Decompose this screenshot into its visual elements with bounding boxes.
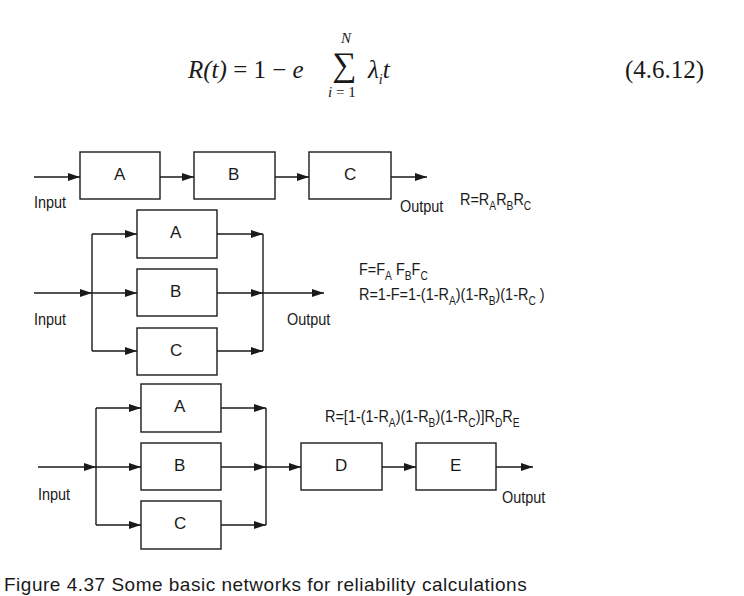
- formula-sub: A: [449, 294, 456, 308]
- mixed-reliability-formula: R=[1-(1-RA)(1-RB)(1-RC)]RDRE: [325, 407, 520, 430]
- formula-sub: D: [495, 416, 502, 430]
- formula-sub: B: [489, 294, 496, 308]
- formula-sub: B: [405, 269, 412, 283]
- formula-sub: C: [420, 269, 427, 283]
- formula-sub: E: [513, 416, 520, 430]
- formula-text: )(1-R: [435, 407, 468, 426]
- series-output-label: Output: [400, 197, 443, 217]
- series-block-b-label: B: [228, 165, 239, 185]
- mixed-block-a-label: A: [174, 397, 185, 417]
- formula-text: R=1-F=1-(1-R: [359, 285, 449, 304]
- parallel-reliability-formula: R=1-F=1-(1-RA)(1-RB)(1-RC ): [359, 285, 545, 308]
- formula-sub: C: [524, 199, 531, 213]
- formula-sub: C: [528, 294, 535, 308]
- formula-sub: B: [507, 199, 514, 213]
- mixed-block-d-label: D: [335, 456, 347, 476]
- formula-text: )(1-R: [495, 285, 528, 304]
- parallel-block-c-label: C: [170, 341, 182, 361]
- parallel-block-b-label: B: [170, 282, 181, 302]
- mixed-block-e-label: E: [450, 456, 461, 476]
- formula-text: F: [392, 260, 405, 279]
- formula-text: R: [502, 407, 512, 426]
- formula-text: )(1-R: [396, 407, 429, 426]
- formula-text: F: [412, 260, 421, 279]
- mixed-block-c-label: C: [174, 514, 186, 534]
- mixed-output-label: Output: [502, 488, 545, 508]
- formula-text: F=F: [359, 260, 385, 279]
- figure-caption: Figure 4.37 Some basic networks for reli…: [4, 574, 527, 596]
- formula-text: R: [513, 190, 523, 209]
- parallel-input-label: Input: [34, 310, 66, 330]
- formula-text: R=R: [460, 190, 489, 209]
- formula-text: R=[1-(1-R: [325, 407, 389, 426]
- formula-text: R: [496, 190, 506, 209]
- formula-text: ): [536, 285, 545, 304]
- formula-sub: B: [429, 416, 436, 430]
- parallel-output-label: Output: [287, 310, 330, 330]
- formula-text: )]R: [476, 407, 495, 426]
- mixed-block-b-label: B: [174, 456, 185, 476]
- formula-sub: A: [489, 199, 496, 213]
- series-block-a-label: A: [114, 165, 125, 185]
- formula-sub: A: [385, 269, 392, 283]
- mixed-input-label: Input: [38, 485, 70, 505]
- series-formula: R=RARBRC: [460, 190, 531, 213]
- formula-text: )(1-R: [456, 285, 489, 304]
- series-block-c-label: C: [344, 165, 356, 185]
- parallel-block-a-label: A: [170, 223, 181, 243]
- parallel-failure-formula: F=FA FBFC: [359, 260, 428, 283]
- series-input-label: Input: [34, 193, 66, 213]
